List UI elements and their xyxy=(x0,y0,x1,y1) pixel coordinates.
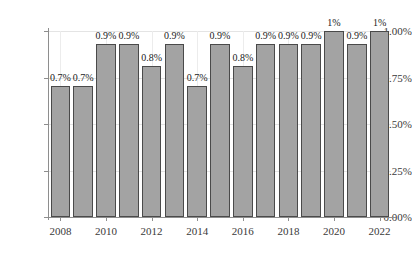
bar-value-label: 0.8% xyxy=(141,53,162,63)
y-axis-line xyxy=(48,28,49,220)
x-tick-label: 2008 xyxy=(49,226,71,237)
bar xyxy=(210,44,230,217)
bar-value-label: 0.9% xyxy=(346,31,367,41)
bar xyxy=(279,44,299,217)
x-tick-label: 2010 xyxy=(95,226,117,237)
x-tick-mark xyxy=(60,217,61,221)
bar xyxy=(256,44,276,217)
x-tick-label: 2012 xyxy=(141,226,163,237)
bar-value-label: 0.9% xyxy=(118,31,139,41)
x-tick-mark xyxy=(243,217,244,221)
x-tick-label: 2020 xyxy=(323,226,345,237)
x-tick-mark xyxy=(380,217,381,221)
bar xyxy=(370,31,390,217)
bar xyxy=(324,31,344,217)
x-tick-label: 2022 xyxy=(369,226,391,237)
x-axis-line xyxy=(44,217,396,218)
bar xyxy=(165,44,185,217)
bar-value-label: 0.9% xyxy=(96,31,117,41)
bar-value-label: 0.8% xyxy=(232,53,253,63)
bar xyxy=(233,66,253,217)
x-tick-mark xyxy=(334,217,335,221)
x-tick-mark xyxy=(288,217,289,221)
x-tick-mark xyxy=(106,217,107,221)
bar-chart: 0.00%0.25%0.50%0.75%1.00% 0.7%0.7%0.9%0.… xyxy=(0,0,412,257)
x-tick-label: 2018 xyxy=(277,226,299,237)
bar-value-label: 1% xyxy=(373,18,386,28)
bar-value-label: 0.7% xyxy=(73,73,94,83)
bar xyxy=(142,66,162,217)
bar-value-label: 0.7% xyxy=(187,73,208,83)
bar xyxy=(187,86,207,217)
bar-value-label: 0.9% xyxy=(210,31,231,41)
bar xyxy=(119,44,139,217)
bar-value-label: 0.7% xyxy=(50,73,71,83)
x-tick-label: 2014 xyxy=(186,226,208,237)
bar-value-label: 1% xyxy=(327,18,340,28)
bar xyxy=(51,86,71,217)
bar-value-label: 0.9% xyxy=(164,31,185,41)
x-tick-mark xyxy=(197,217,198,221)
x-tick-mark xyxy=(152,217,153,221)
x-tick-label: 2016 xyxy=(232,226,254,237)
bar xyxy=(96,44,116,217)
bar-value-label: 0.9% xyxy=(255,31,276,41)
bar xyxy=(301,44,321,217)
bar-value-label: 0.9% xyxy=(278,31,299,41)
bar xyxy=(347,44,367,217)
bar-value-label: 0.9% xyxy=(301,31,322,41)
bar xyxy=(73,86,93,217)
